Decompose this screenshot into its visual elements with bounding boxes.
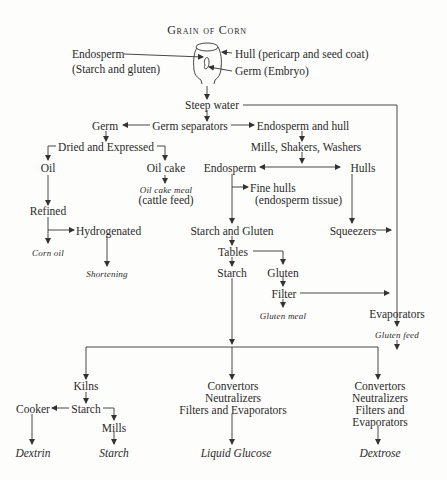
node-fine-hulls: Fine hulls <box>250 182 296 194</box>
product-dextrose: Dextrose <box>359 447 400 459</box>
corn-grain-icon <box>194 43 222 84</box>
product-cattle-feed: (cattle feed) <box>138 194 193 206</box>
node-endosperm-and-hull: Endosperm and hull <box>257 120 350 132</box>
label-endosperm: Endosperm <box>72 48 124 60</box>
node-filter: Filter <box>272 288 297 300</box>
node-filters-and-2: Filters and <box>356 404 405 416</box>
node-neutralizers-2: Neutralizers <box>352 392 408 404</box>
node-oil-cake: Oil cake <box>147 162 186 174</box>
product-starch: Starch <box>99 447 129 459</box>
node-evaporators-2: Evaporators <box>352 416 408 428</box>
product-corn-oil: Corn oil <box>32 247 64 259</box>
node-convertors-2: Convertors <box>354 380 405 392</box>
node-germ-separators: Germ separators <box>152 120 228 132</box>
node-hulls: Hulls <box>351 162 376 174</box>
node-germ: Germ <box>92 120 118 132</box>
node-neutralizers-1: Neutralizers <box>205 392 261 404</box>
product-liquid-glucose: Liquid Glucose <box>201 447 272 459</box>
product-shortening: Shortening <box>86 268 128 280</box>
product-dextrin: Dextrin <box>15 447 50 459</box>
node-filters-evaporators-1: Filters and Evaporators <box>179 404 286 416</box>
node-dried-expressed: Dried and Expressed <box>58 141 154 153</box>
label-hull: Hull (pericarp and seed coat) <box>235 48 368 60</box>
node-gluten: Gluten <box>267 267 298 279</box>
node-fine-hulls-sub: (endosperm tissue) <box>255 194 342 206</box>
product-gluten-meal: Gluten meal <box>260 310 306 322</box>
node-mills-shakers-washers: Mills, Shakers, Washers <box>251 141 362 153</box>
node-kilns: Kilns <box>74 380 99 392</box>
label-germ: Germ (Embryo) <box>235 65 309 77</box>
node-oil: Oil <box>41 162 56 174</box>
node-refined: Refined <box>30 205 66 217</box>
node-endosperm: Endosperm <box>204 162 256 174</box>
node-starch: Starch <box>217 267 246 279</box>
node-tables: Tables <box>218 246 248 258</box>
node-starch-kiln: Starch <box>71 403 100 415</box>
product-gluten-feed: Gluten feed <box>375 329 419 341</box>
node-squeezers: Squeezers <box>330 225 377 237</box>
node-cooker: Cooker <box>16 403 50 415</box>
node-starch-and-gluten: Starch and Gluten <box>190 225 273 237</box>
node-convertors-1: Convertors <box>207 380 258 392</box>
node-steep-water: Steep water <box>185 99 239 111</box>
label-endosperm-sub: (Starch and gluten) <box>72 63 160 75</box>
node-evaporators: Evaporators <box>369 308 425 320</box>
diagram-title: Grain of Corn <box>167 24 247 36</box>
node-mills: Mills <box>102 422 126 434</box>
node-hydrogenated: Hydrogenated <box>76 225 141 237</box>
